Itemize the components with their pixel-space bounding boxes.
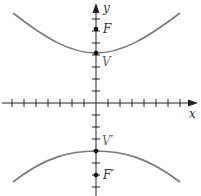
focus-bottom-point xyxy=(94,173,99,178)
x-axis xyxy=(2,99,198,107)
focus-bottom-label: F′ xyxy=(103,169,114,181)
vertex-bottom-point xyxy=(94,149,99,154)
vertex-top-label: V xyxy=(102,56,111,68)
focus-top-label: F xyxy=(103,23,111,35)
y-axis-arrow-icon xyxy=(93,3,100,13)
x-axis-label: x xyxy=(189,108,196,120)
hyperbola-diagram: y x F V V′ F′ xyxy=(0,0,201,196)
y-axis xyxy=(92,3,100,196)
vertex-bottom-label: V′ xyxy=(102,135,113,147)
vertex-top-point xyxy=(94,51,99,56)
diagram-graphics xyxy=(0,0,201,196)
y-axis-label: y xyxy=(103,2,110,14)
focus-top-point xyxy=(94,27,99,32)
x-axis-arrow-icon xyxy=(188,100,198,107)
